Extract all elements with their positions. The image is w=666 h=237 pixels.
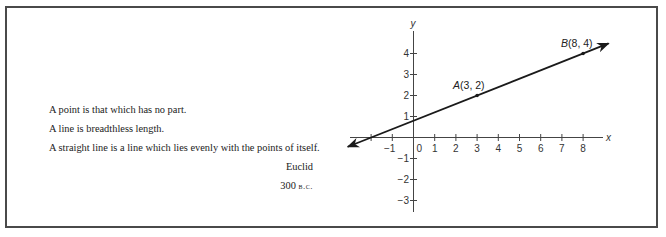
x-tick-label: 3	[474, 143, 480, 154]
x-tick-label: 4	[496, 143, 502, 154]
x-tick-label: −1	[384, 143, 396, 154]
y-tick-label: −1	[398, 153, 410, 164]
x-tick-label: 2	[453, 143, 459, 154]
y-tick-label: 4	[403, 48, 409, 59]
y-tick-label: −2	[398, 174, 410, 185]
point-b	[581, 52, 585, 56]
x-tick-label: 6	[538, 143, 544, 154]
x-tick-label: 5	[517, 143, 523, 154]
y-tick-label: 2	[403, 90, 409, 101]
ticks: −1012345678−3−2−11234	[371, 48, 586, 206]
x-tick-label: 8	[580, 143, 586, 154]
x-tick-label: 0	[417, 143, 423, 154]
point-label-a: A(3, 2)	[452, 79, 485, 91]
point-label-b: B(8, 4)	[561, 37, 593, 49]
point-coords: (8, 4)	[568, 37, 593, 49]
y-tick-label: 1	[403, 111, 409, 122]
coordinate-plane: xy −1012345678−3−2−11234 A(3, 2)B(8, 4)	[0, 0, 666, 237]
point-coords: (3, 2)	[460, 79, 485, 91]
point-name: A	[452, 79, 460, 91]
y-axis-label: y	[410, 18, 417, 29]
x-axis-label: x	[605, 132, 612, 143]
points: A(3, 2)B(8, 4)	[452, 37, 593, 98]
y-tick-label: 3	[403, 69, 409, 80]
point-a	[475, 94, 479, 98]
x-tick-label: 1	[432, 143, 438, 154]
y-tick-label: −3	[398, 195, 410, 206]
x-tick-label: 7	[559, 143, 565, 154]
point-name: B	[561, 37, 568, 49]
